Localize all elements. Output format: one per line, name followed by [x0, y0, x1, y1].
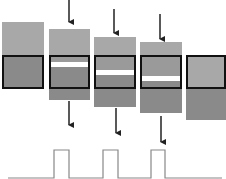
block-2-lower — [49, 89, 90, 100]
block-1-frame-fill — [2, 55, 44, 89]
block-5-lower — [186, 89, 226, 120]
block-4-frame-upper — [140, 55, 182, 76]
diagram-canvas — [0, 0, 226, 179]
block-3-upper — [94, 37, 136, 55]
block-2-upper — [49, 29, 90, 55]
block-5-frame-fill — [186, 55, 226, 89]
block-4-white-band — [140, 76, 182, 81]
block-3-lower — [94, 89, 136, 107]
block-2-frame-lower — [49, 67, 90, 89]
pulse-signal-waveform — [8, 150, 222, 178]
block-3-white-band — [94, 70, 136, 75]
block-3-frame-upper — [94, 55, 136, 70]
block-4-lower — [140, 89, 182, 113]
block-3-frame-lower — [94, 75, 136, 89]
block-1-upper — [2, 22, 44, 55]
block-4-upper — [140, 42, 182, 55]
block-2-white-band — [49, 62, 90, 67]
